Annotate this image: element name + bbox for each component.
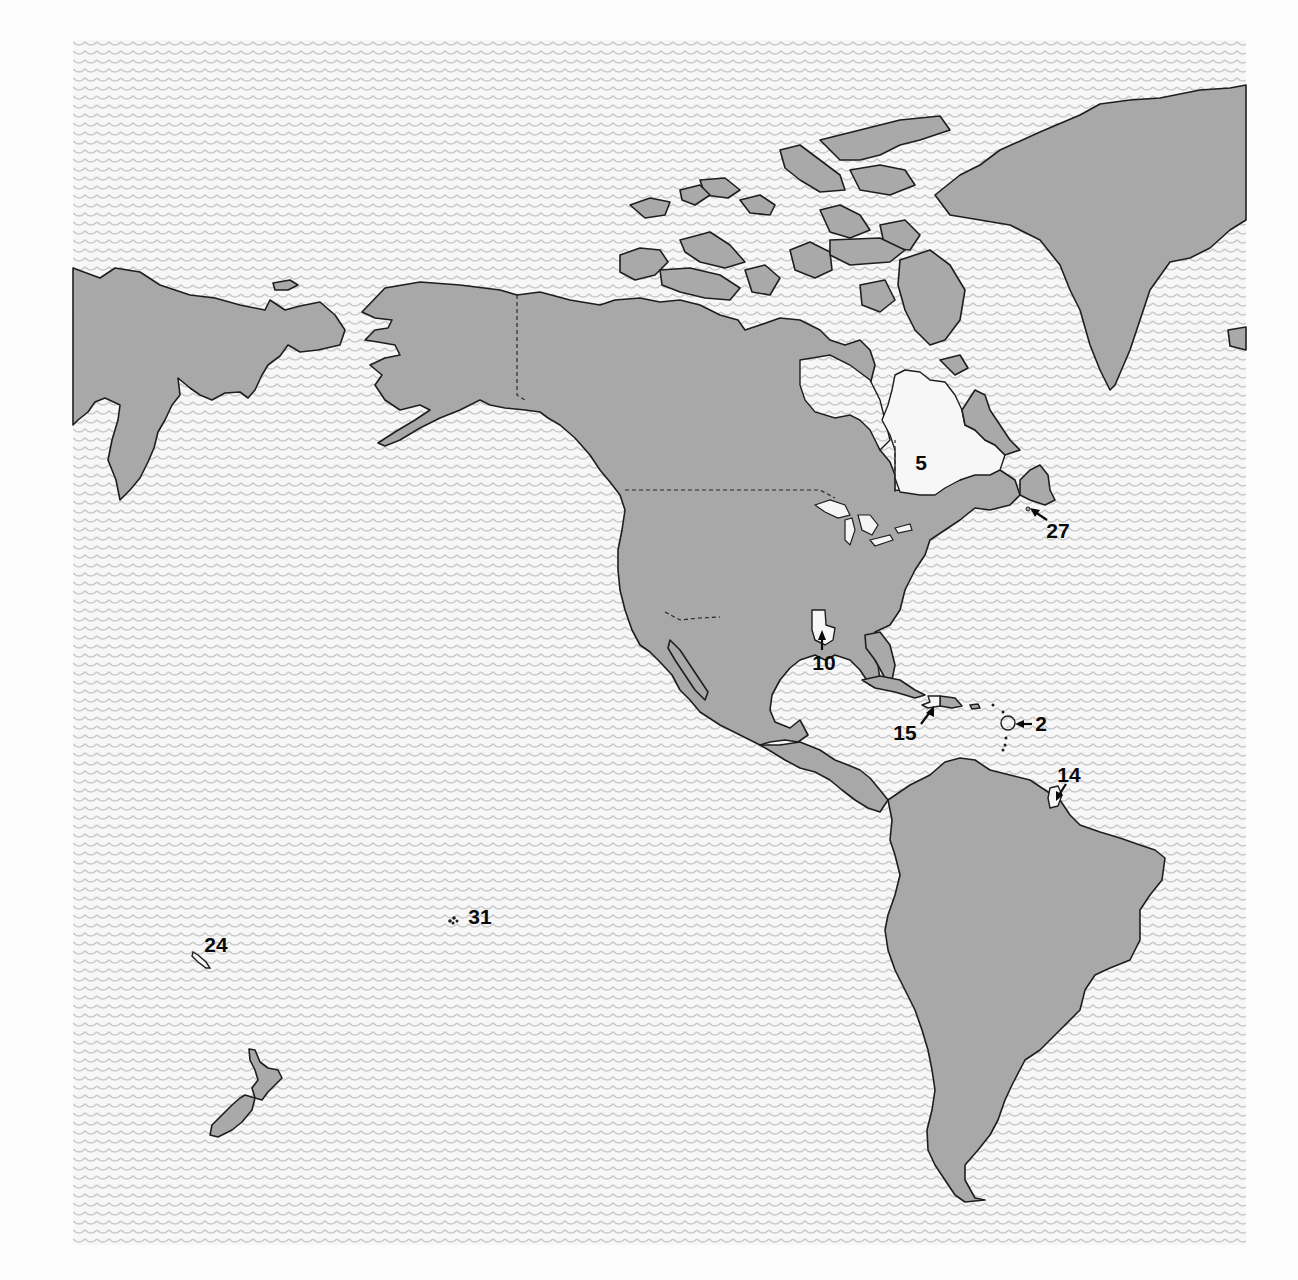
map-canvas: 5 27 10 15 2 14 24 31 [0,0,1298,1280]
label-text: 2 [1035,712,1047,735]
map: 5 27 10 15 2 14 24 31 [0,0,1298,1280]
label-5: 5 [915,451,927,474]
island-iceland-edge [1228,327,1246,350]
island-saint-pierre [1026,507,1030,511]
label-text: 10 [812,651,835,674]
label-24: 24 [204,933,228,956]
label-text: 15 [893,721,917,744]
label-text: 24 [204,933,228,956]
label-text: 27 [1046,519,1069,542]
label-text: 5 [915,451,927,474]
island-puerto-rico [970,704,980,709]
label-31: 31 [468,905,492,928]
label-text: 14 [1057,763,1081,786]
label-text: 31 [468,905,492,928]
